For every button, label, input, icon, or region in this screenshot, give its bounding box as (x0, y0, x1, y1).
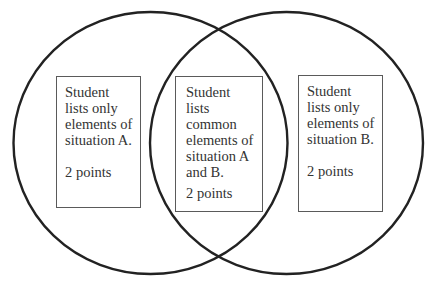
points-label: 2 points (65, 164, 140, 180)
region-common-a-and-b: Student lists common elements of situati… (175, 76, 263, 212)
region-text-line: lists only (65, 100, 140, 116)
region-text-line: common (186, 116, 262, 132)
region-text-line: elements of (65, 116, 140, 132)
region-text-line: Student (307, 83, 382, 99)
region-text-line: Student (65, 84, 140, 100)
points-label: 2 points (186, 185, 262, 201)
region-text-line: situation A (186, 148, 262, 164)
region-text-line: and B. (186, 164, 262, 180)
region-only-situation-a: Student lists only elements of situation… (56, 76, 141, 208)
region-text-line: elements of (307, 115, 382, 131)
region-text-line: lists only (307, 99, 382, 115)
region-text-line: situation B. (307, 131, 382, 147)
points-label: 2 points (307, 163, 382, 179)
region-only-situation-b: Student lists only elements of situation… (298, 75, 383, 212)
region-text-line: situation A. (65, 132, 140, 148)
region-text-line: elements of (186, 132, 262, 148)
region-text-line: Student (186, 84, 262, 100)
region-text-line: lists (186, 100, 262, 116)
